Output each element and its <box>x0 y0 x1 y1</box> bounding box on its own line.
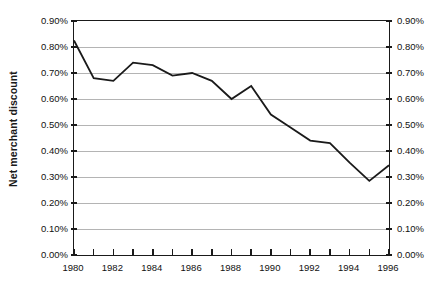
x-axis-tick-mark <box>388 249 390 255</box>
y-axis-left-tick-labels: 0.90%0.80%0.70%0.60%0.50%0.40%0.30%0.20%… <box>22 21 68 255</box>
y-axis-tick-label-right: 0.30% <box>397 172 443 182</box>
x-axis-tick-label: 1990 <box>259 262 280 273</box>
y-axis-tick-label-left: 0.00% <box>22 250 68 260</box>
y-axis-tick-label-left: 0.90% <box>22 16 68 26</box>
y-axis-title-label: Net merchant discount <box>7 71 19 187</box>
y-axis-tick-label-left: 0.70% <box>22 68 68 78</box>
x-axis-tick-label: 1984 <box>141 262 162 273</box>
y-axis-tick-mark-left <box>71 176 77 178</box>
x-axis-tick-label: 1992 <box>299 262 320 273</box>
x-axis-tick-mark <box>270 249 272 255</box>
y-axis-tick-label-left: 0.30% <box>22 172 68 182</box>
x-axis-tick-mark <box>113 249 115 255</box>
x-axis-tick-labels: 198019821984198619881990199219941996 <box>73 262 388 280</box>
y-axis-tick-mark-right <box>386 72 392 74</box>
x-axis-tick-label: 1994 <box>338 262 359 273</box>
y-axis-tick-label-right: 0.70% <box>397 68 443 78</box>
x-axis-tick-mark <box>369 249 371 255</box>
x-axis-tick-mark <box>250 249 252 255</box>
y-axis-tick-mark-right <box>386 150 392 152</box>
y-axis-tick-mark-right <box>386 46 392 48</box>
x-axis-tick-mark <box>309 249 311 255</box>
y-axis-tick-label-right: 0.90% <box>397 16 443 26</box>
y-axis-tick-mark-right <box>386 228 392 230</box>
x-axis-tick-label: 1980 <box>62 262 83 273</box>
x-axis-tick-label: 1982 <box>102 262 123 273</box>
series-line-net-merchant-discount <box>74 21 389 255</box>
y-axis-tick-mark-left <box>71 46 77 48</box>
y-axis-tick-mark-left <box>71 202 77 204</box>
y-axis-tick-mark-left <box>71 98 77 100</box>
y-axis-tick-label-right: 0.00% <box>397 250 443 260</box>
y-axis-tick-mark-right <box>386 20 392 22</box>
y-axis-right-tick-labels: 0.90%0.80%0.70%0.60%0.50%0.40%0.30%0.20%… <box>397 21 443 255</box>
y-axis-tick-label-right: 0.40% <box>397 146 443 156</box>
x-axis-tick-mark <box>211 249 213 255</box>
x-axis-tick-mark <box>329 249 331 255</box>
x-axis-tick-label: 1986 <box>181 262 202 273</box>
y-axis-tick-mark-left <box>71 228 77 230</box>
y-axis-tick-label-right: 0.10% <box>397 224 443 234</box>
y-axis-tick-label-right: 0.80% <box>397 42 443 52</box>
y-axis-tick-label-right: 0.50% <box>397 120 443 130</box>
x-axis-tick-mark <box>290 249 292 255</box>
x-axis-tick-mark <box>132 249 134 255</box>
y-axis-tick-mark-left <box>71 150 77 152</box>
y-axis-tick-mark-right <box>386 202 392 204</box>
y-axis-tick-label-right: 0.60% <box>397 94 443 104</box>
y-axis-tick-mark-right <box>386 124 392 126</box>
x-axis-tick-mark <box>73 249 75 255</box>
x-axis-tick-mark <box>191 249 193 255</box>
plot-area <box>73 21 390 256</box>
series-polyline <box>74 41 389 181</box>
y-axis-tick-label-left: 0.50% <box>22 120 68 130</box>
y-axis-tick-mark-left <box>71 20 77 22</box>
x-axis-tick-label: 1988 <box>220 262 241 273</box>
y-axis-tick-label-left: 0.20% <box>22 198 68 208</box>
x-axis-tick-label: 1996 <box>377 262 398 273</box>
y-axis-tick-label-left: 0.10% <box>22 224 68 234</box>
y-axis-tick-label-left: 0.80% <box>22 42 68 52</box>
x-axis-tick-mark <box>349 249 351 255</box>
x-axis-tick-mark <box>152 249 154 255</box>
y-axis-tick-mark-left <box>71 124 77 126</box>
y-axis-tick-mark-left <box>71 72 77 74</box>
y-axis-tick-mark-right <box>386 98 392 100</box>
chart-container: Net merchant discount 0.90%0.80%0.70%0.6… <box>0 0 445 295</box>
y-axis-tick-label-left: 0.40% <box>22 146 68 156</box>
y-axis-tick-mark-right <box>386 176 392 178</box>
y-axis-tick-label-left: 0.60% <box>22 94 68 104</box>
y-axis-tick-label-right: 0.20% <box>397 198 443 208</box>
x-axis-tick-mark <box>172 249 174 255</box>
x-axis-tick-mark <box>93 249 95 255</box>
x-axis-tick-mark <box>231 249 233 255</box>
